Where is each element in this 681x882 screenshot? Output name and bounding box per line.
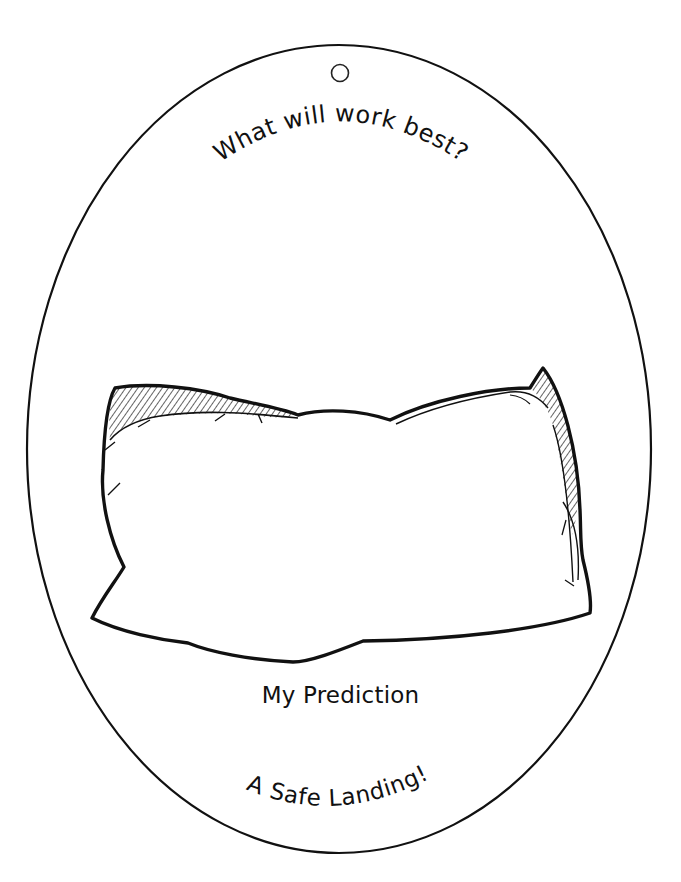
card-outline [27, 45, 651, 853]
prediction-label: My Prediction [0, 682, 681, 708]
prediction-card: What will work best? A Safe Landing! [0, 0, 681, 882]
hang-hole [332, 65, 349, 82]
